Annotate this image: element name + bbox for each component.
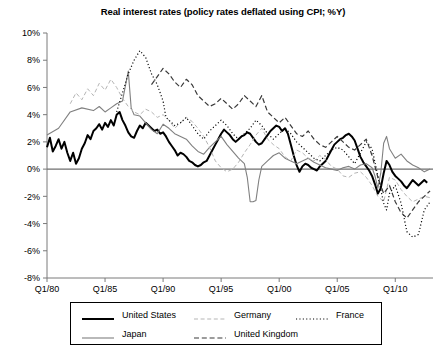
svg-text:4%: 4% (27, 110, 40, 120)
legend-swatch-japan-icon (81, 329, 115, 339)
legend-swatch-germany-icon (193, 310, 227, 320)
svg-text:2%: 2% (27, 137, 40, 147)
series-line-japan (47, 71, 430, 202)
svg-text:Q1/00: Q1/00 (267, 284, 292, 294)
svg-text:-6%: -6% (24, 246, 40, 256)
chart-tick-labels: 10%8%6%4%2%0%-2%-4%-6%-8%Q1/80Q1/85Q1/90… (22, 28, 408, 294)
legend-item-france[interactable]: France (295, 310, 364, 320)
legend-label-france: France (336, 310, 364, 320)
legend-swatch-united-kingdom-icon (193, 329, 227, 339)
svg-text:Q1/10: Q1/10 (383, 284, 408, 294)
legend-label-united-kingdom: United Kingdom (234, 329, 298, 339)
legend-swatch-united-states-icon (81, 310, 115, 320)
svg-text:Q1/95: Q1/95 (209, 284, 234, 294)
legend-label-united-states: United States (122, 310, 176, 320)
svg-text:6%: 6% (27, 83, 40, 93)
legend-swatch-france-icon (295, 310, 329, 320)
chart-plot-area: 10%8%6%4%2%0%-2%-4%-6%-8%Q1/80Q1/85Q1/90… (0, 0, 446, 352)
legend-label-japan: Japan (122, 329, 147, 339)
svg-text:Q1/85: Q1/85 (93, 284, 118, 294)
svg-text:-2%: -2% (24, 192, 40, 202)
chart-root: Real interest rates (policy rates deflat… (0, 0, 446, 352)
svg-text:-4%: -4% (24, 219, 40, 229)
legend-item-japan[interactable]: Japan (81, 329, 147, 339)
svg-text:Q1/90: Q1/90 (151, 284, 176, 294)
svg-text:10%: 10% (22, 28, 40, 38)
svg-text:Q1/05: Q1/05 (325, 284, 350, 294)
legend-item-germany[interactable]: Germany (193, 310, 271, 320)
legend-row-2: Japan United Kingdom (71, 324, 381, 344)
legend-item-united-states[interactable]: United States (81, 310, 176, 320)
legend-label-germany: Germany (234, 310, 271, 320)
series-line-united-states (47, 112, 427, 194)
svg-text:8%: 8% (27, 55, 40, 65)
chart-legend: United States Germany France Japan Unite… (70, 302, 382, 345)
legend-row-1: United States Germany France (71, 305, 381, 325)
svg-text:Q1/80: Q1/80 (35, 284, 60, 294)
svg-text:-8%: -8% (24, 273, 40, 283)
svg-text:0%: 0% (27, 164, 40, 174)
legend-item-united-kingdom[interactable]: United Kingdom (193, 329, 298, 339)
chart-series-layer (47, 51, 430, 237)
series-line-germany (70, 79, 430, 202)
